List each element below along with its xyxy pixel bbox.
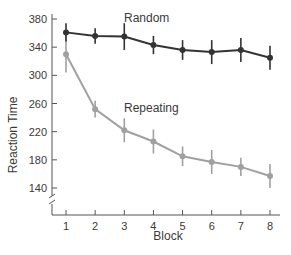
data-point bbox=[63, 29, 69, 35]
x-tick-label: 8 bbox=[267, 220, 273, 232]
x-tick-label: 7 bbox=[238, 220, 244, 232]
data-point bbox=[238, 47, 244, 53]
series-random bbox=[63, 23, 273, 69]
data-point bbox=[209, 159, 215, 165]
data-point bbox=[238, 164, 244, 170]
reaction-time-chart: 14018022026030034038012345678 Reaction T… bbox=[0, 0, 291, 255]
data-point bbox=[63, 51, 69, 57]
series-label-random: Random bbox=[124, 11, 169, 25]
y-axis-label: Reaction Time bbox=[6, 96, 20, 173]
y-tick-label: 220 bbox=[29, 126, 47, 138]
data-point bbox=[150, 42, 156, 48]
data-point bbox=[180, 153, 186, 159]
x-tick-label: 6 bbox=[209, 220, 215, 232]
y-tick-label: 380 bbox=[29, 13, 47, 25]
series-label-repeating: Repeating bbox=[124, 101, 179, 115]
data-point bbox=[92, 106, 98, 112]
y-tick-label: 140 bbox=[29, 182, 47, 194]
data-point bbox=[121, 34, 127, 40]
data-point bbox=[92, 33, 98, 39]
series-line bbox=[66, 54, 270, 176]
data-point bbox=[180, 47, 186, 53]
data-point bbox=[121, 127, 127, 133]
x-tick-label: 2 bbox=[92, 220, 98, 232]
x-axis-label: Block bbox=[153, 229, 183, 243]
chart-canvas: 14018022026030034038012345678 Reaction T… bbox=[0, 0, 291, 255]
y-tick-label: 300 bbox=[29, 69, 47, 81]
data-point bbox=[267, 55, 273, 61]
data-point bbox=[267, 173, 273, 179]
data-point bbox=[209, 49, 215, 55]
data-point bbox=[150, 139, 156, 145]
x-tick-label: 3 bbox=[121, 220, 127, 232]
y-tick-label: 260 bbox=[29, 98, 47, 110]
y-tick-label: 180 bbox=[29, 154, 47, 166]
y-tick-label: 340 bbox=[29, 41, 47, 53]
axis-break-mark bbox=[49, 200, 55, 204]
x-tick-label: 1 bbox=[63, 220, 69, 232]
